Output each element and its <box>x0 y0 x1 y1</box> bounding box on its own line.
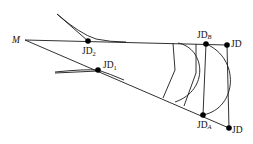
point-jd-bottom <box>226 125 232 131</box>
label-jd-top: JD <box>231 39 242 49</box>
lower-tangent-line <box>25 40 229 128</box>
jdb-jda-line <box>203 44 206 115</box>
inner-polyline <box>163 43 175 98</box>
upper-curve-tangent <box>57 14 88 41</box>
label-jda: JDA <box>197 120 212 130</box>
point-jd-top <box>224 42 230 48</box>
point-jd1 <box>95 67 101 73</box>
label-m: M <box>11 35 21 45</box>
point-jda <box>200 112 206 118</box>
label-jd1: JD1 <box>103 60 117 71</box>
jd-vertical-line <box>227 45 229 128</box>
outer-arc <box>203 44 230 115</box>
label-jd-bottom: JD <box>232 125 243 135</box>
label-jd2: JD2 <box>82 46 96 57</box>
upper-tangent-line <box>25 40 227 45</box>
upper-curve <box>57 14 126 42</box>
alignment-diagram: M JD2 JD1 JDB JD JDA JD <box>0 0 253 144</box>
label-jdb: JDB <box>197 30 212 40</box>
point-jd2 <box>85 38 91 44</box>
point-jdb <box>203 41 209 47</box>
